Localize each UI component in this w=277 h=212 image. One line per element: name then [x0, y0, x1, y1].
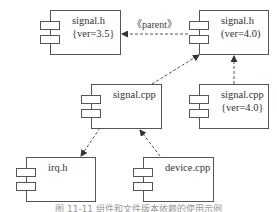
component-name: signal.h: [221, 14, 254, 27]
component-name: signal.h: [72, 14, 105, 27]
component-port-icon: [81, 109, 101, 118]
component-port-icon: [81, 95, 101, 104]
component-name: signal.cpp: [113, 88, 156, 101]
component-port-icon: [133, 182, 153, 191]
component-port-icon: [40, 21, 60, 30]
component-device-cpp: device.cpp: [143, 157, 214, 202]
figure-caption: 图 11-11 组件和文件版本依赖的使用示例: [0, 202, 277, 212]
component-name: device.cpp: [165, 161, 210, 174]
component-version-tag: {ver=3.5}: [72, 27, 115, 40]
parent-stereotype-label: 《parent》: [132, 16, 177, 31]
component-port-icon: [189, 35, 209, 44]
component-signal-cpp-ver-4-0: signal.cpp {ver=4.0}: [199, 84, 269, 129]
component-port-icon: [189, 95, 209, 104]
component-irq-h: irq.h: [26, 157, 96, 202]
component-name: signal.cpp: [221, 88, 264, 101]
component-port-icon: [16, 168, 36, 177]
component-port-icon: [16, 182, 36, 191]
component-port-icon: [133, 168, 153, 177]
component-port-icon: [40, 35, 60, 44]
component-name: irq.h: [48, 161, 68, 174]
component-signal-cpp: signal.cpp: [91, 84, 162, 129]
component-version-tag: (ver=4.0): [221, 27, 260, 40]
component-version-tag: {ver=4.0}: [221, 101, 264, 114]
component-port-icon: [189, 21, 209, 30]
component-port-icon: [189, 109, 209, 118]
component-signal-h-ver-4-0: signal.h (ver=4.0): [199, 10, 269, 55]
component-signal-h-ver-3-5: signal.h {ver=3.5}: [50, 10, 121, 55]
